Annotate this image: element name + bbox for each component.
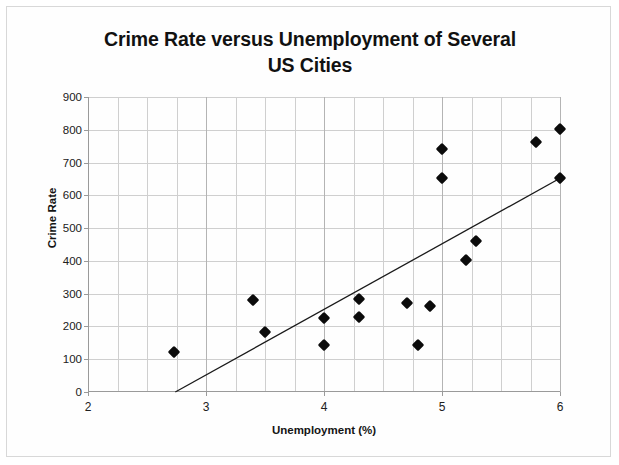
y-tick-label: 900 [36, 91, 82, 103]
y-tick-mark [84, 130, 88, 131]
chart-card: Crime Rate versus Unemployment of Severa… [0, 0, 619, 465]
y-tick-mark [84, 195, 88, 196]
y-tick-label: 700 [36, 157, 82, 169]
x-tick-mark [206, 392, 207, 396]
y-tick-mark [84, 326, 88, 327]
y-tick-label: 800 [36, 124, 82, 136]
y-tick-label: 0 [36, 386, 82, 398]
x-tick-label: 5 [427, 400, 457, 414]
y-tick-mark [84, 228, 88, 229]
chart-title: Crime Rate versus Unemployment of Severa… [60, 26, 560, 78]
y-tick-mark [84, 294, 88, 295]
chart-title-line-1: Crime Rate versus Unemployment of Severa… [60, 26, 560, 52]
x-tick-label: 4 [309, 400, 339, 414]
x-tick-mark [324, 392, 325, 396]
y-tick-label: 300 [36, 288, 82, 300]
x-axis-title: Unemployment (%) [88, 424, 560, 436]
x-tick-mark [442, 392, 443, 396]
y-tick-mark [84, 97, 88, 98]
y-tick-label: 500 [36, 222, 82, 234]
y-tick-label: 400 [36, 255, 82, 267]
chart-title-line-2: US Cities [60, 52, 560, 78]
y-tick-label: 600 [36, 189, 82, 201]
x-tick-mark [560, 392, 561, 396]
y-tick-label: 200 [36, 320, 82, 332]
x-tick-label: 2 [73, 400, 103, 414]
x-tick-mark [88, 392, 89, 396]
y-tick-mark [84, 359, 88, 360]
y-tick-label: 100 [36, 353, 82, 365]
y-tick-mark [84, 261, 88, 262]
x-tick-label: 3 [191, 400, 221, 414]
plot-area [88, 97, 560, 392]
x-tick-label: 6 [545, 400, 575, 414]
y-tick-mark [84, 163, 88, 164]
gridline-vertical-major [560, 97, 561, 392]
